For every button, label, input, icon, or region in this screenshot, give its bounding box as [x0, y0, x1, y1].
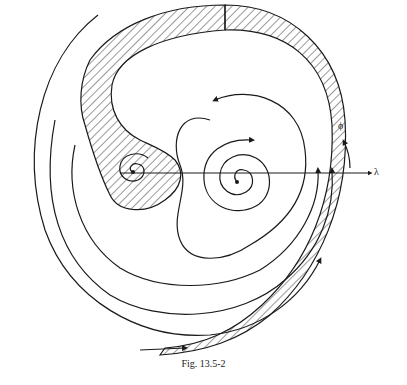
right-focus-point — [235, 180, 239, 184]
figure: λ ϕ Fig. 13.5-2 — [0, 0, 407, 385]
trajectory-right-spiral — [204, 140, 270, 211]
figure-caption: Fig. 13.5-2 — [0, 358, 407, 369]
trajectory-middle-loop — [176, 94, 306, 258]
lambda-axis-label: λ — [374, 166, 379, 177]
left-focus-point — [131, 170, 135, 174]
phi-axis-label: ϕ — [338, 120, 343, 131]
phase-portrait-diagram — [0, 0, 407, 385]
